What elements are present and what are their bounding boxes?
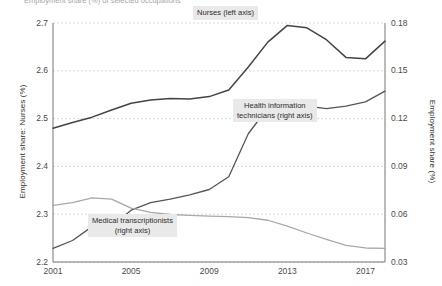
x-axis-tick-label: 2013 [267,266,307,276]
chart-figure: Employment share (%) of selected occupat… [0,0,442,286]
series-label-medical-transcriptionists: Medical transcriptionists (right axis) [88,214,177,237]
x-axis-tick-label: 2009 [189,266,229,276]
right-axis-tick-label: 0.03 [391,257,421,267]
left-axis-tick-label: 2.3 [22,209,48,219]
x-axis-tick-label: 2017 [345,266,385,276]
series-label-nurses: Nurses (left axis) [193,6,258,20]
left-axis-tick-label: 2.5 [22,113,48,123]
right-axis-tick-label: 0.09 [391,161,421,171]
left-axis-tick-label: 2.7 [22,18,48,28]
right-axis-tick-label: 0.12 [391,113,421,123]
x-axis-tick-label: 2005 [111,266,151,276]
series-label-mt-line2: (right axis) [92,226,173,236]
series-label-health-information-technicians: Health information technicians (right ax… [233,99,317,122]
left-axis-tick-label: 2.6 [22,65,48,75]
right-axis-title: Employment share (%) [428,72,437,212]
left-axis-tick-label: 2.2 [22,257,48,267]
left-axis-title: Employment share: Nurses (%) [18,72,27,212]
right-axis-tick-label: 0.06 [391,209,421,219]
left-axis-tick-label: 2.4 [22,161,48,171]
series-line-0 [53,25,385,128]
series-label-hit-line2: technicians (right axis) [237,111,313,121]
series-label-hit-line1: Health information [237,101,313,111]
right-axis-tick-label: 0.15 [391,65,421,75]
right-axis-tick-label: 0.18 [391,18,421,28]
x-axis-tick-label: 2001 [33,266,73,276]
chart-plot-area [0,0,442,286]
series-label-mt-line1: Medical transcriptionists [92,216,173,226]
